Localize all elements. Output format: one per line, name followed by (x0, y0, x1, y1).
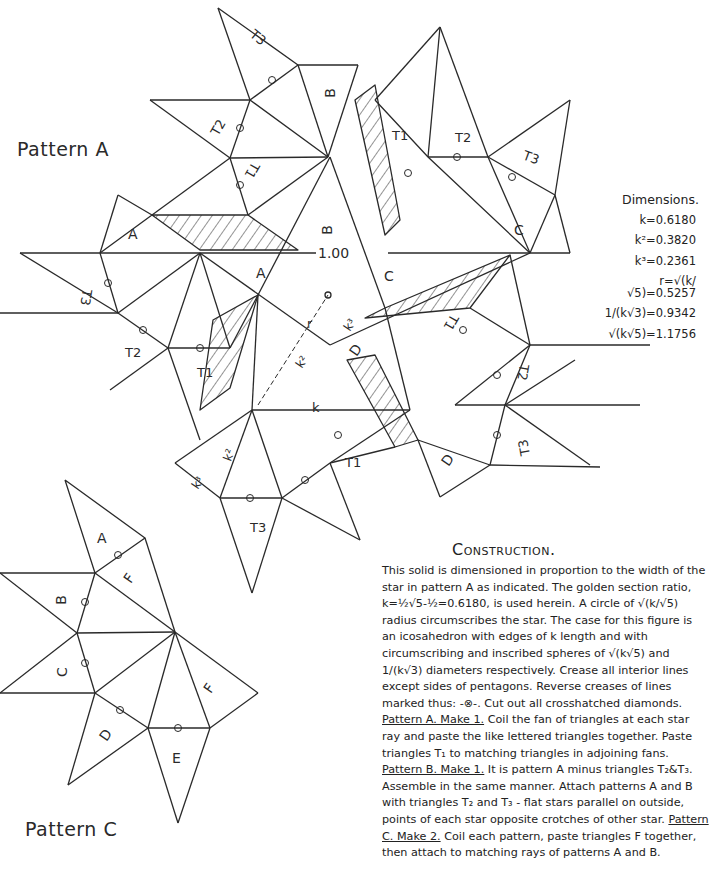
triangle-label: C (514, 222, 524, 238)
triangle-label: B (322, 88, 338, 98)
triangle-label: C (384, 268, 394, 284)
construction-title: Construction. (452, 540, 709, 559)
pattern-c-lines (0, 480, 258, 823)
dimension-row: r=√(k/√5)=0.5257 (596, 276, 706, 299)
measure-label-k: k (312, 400, 320, 415)
measure-label-r: r (307, 317, 312, 331)
triangle-label: E (172, 750, 181, 766)
triangle-label: T3 (250, 520, 266, 535)
triangle-label: A (128, 226, 138, 242)
pattern-a-title: Pattern A (17, 138, 109, 160)
triangle-label: T2 (514, 363, 532, 382)
triangle-label: T1 (197, 365, 213, 380)
triangle-label: A (97, 530, 107, 546)
triangle-label: C (54, 667, 70, 677)
dimension-row: √(k√5)=1.1756 (596, 329, 706, 341)
dimensions-title: Dimensions. (596, 194, 706, 207)
construction-paragraph: This solid is dimensioned in proportion … (382, 563, 709, 862)
dimension-row: k³=0.2361 (596, 256, 706, 268)
dimension-row: 1/(k√3)=0.9342 (596, 308, 706, 320)
triangle-label: T3 (77, 288, 95, 307)
dimension-row: k²=0.3820 (596, 235, 706, 247)
construction-intro: This solid is dimensioned in proportion … (382, 564, 705, 710)
triangle-label: B (319, 225, 335, 235)
triangle-label: T3 (515, 438, 533, 457)
pattern-c-title: Pattern C (25, 818, 117, 840)
dimensions-panel: Dimensions. k=0.6180 k²=0.3820 k³=0.2361… (596, 194, 706, 349)
triangle-label: T2 (125, 345, 141, 360)
pattern-b-instruction-heading: Pattern B. Make 1. (382, 763, 484, 776)
triangle-label: A (256, 265, 266, 281)
width-label: 1.00 (316, 245, 351, 261)
triangle-label: T1 (345, 455, 361, 470)
pattern-a-instruction-heading: Pattern A. Make 1. (382, 713, 484, 726)
dimension-row: k=0.6180 (596, 215, 706, 227)
triangle-label: B (53, 595, 69, 605)
triangle-label: T1 (392, 128, 408, 143)
construction-notes: Construction. This solid is dimensioned … (382, 540, 709, 862)
triangle-label: T2 (455, 130, 471, 145)
